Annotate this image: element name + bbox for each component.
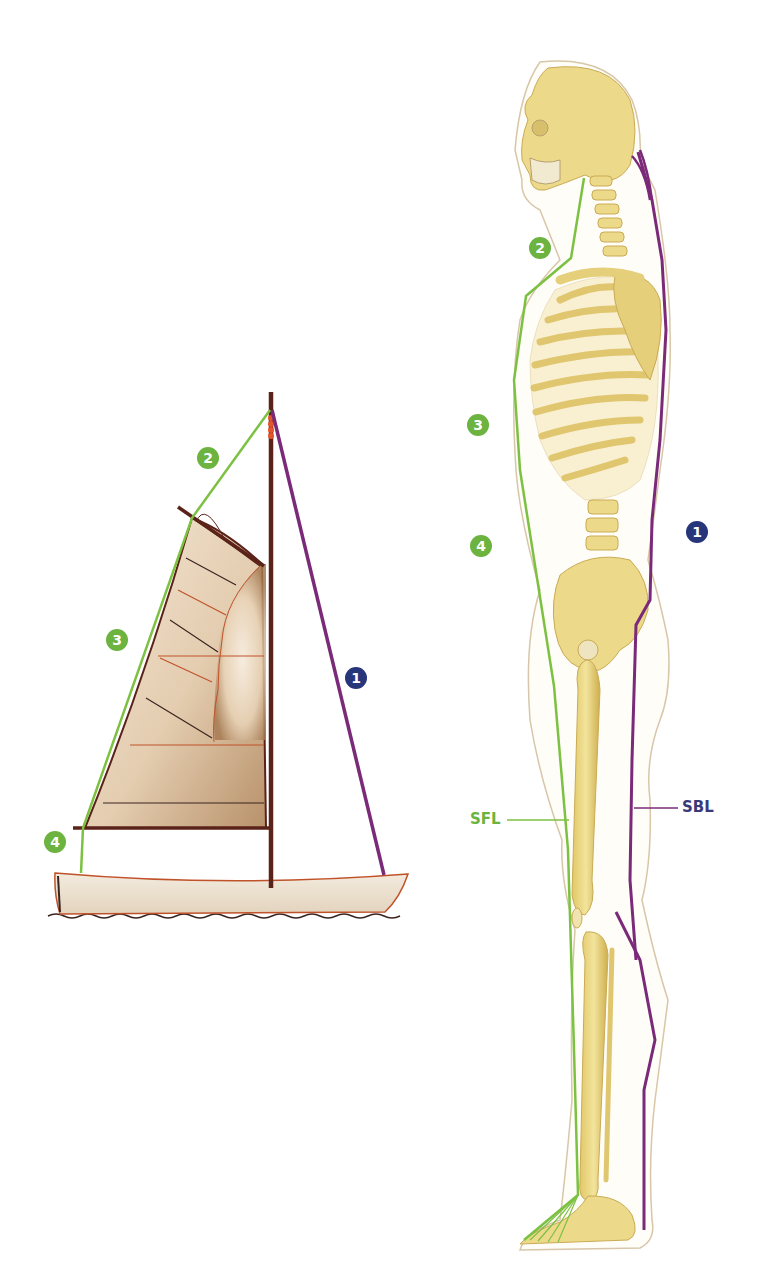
hull [55,873,408,914]
diagram-canvas: 1 2 3 4 1 2 3 4 SFL SBL [0,0,770,1278]
badge-1-skeleton: 1 [686,521,708,543]
sailboat-back-line [272,410,384,875]
svg-text:2: 2 [203,450,213,466]
lumbar-spine [586,500,618,550]
svg-text:1: 1 [692,524,702,540]
badge-2-skeleton: 2 [529,237,551,259]
badge-2-sailboat: 2 [197,447,219,469]
badge-4-skeleton: 4 [470,535,492,557]
svg-text:1: 1 [351,670,361,686]
sailboat-illustration [48,392,408,918]
svg-text:2: 2 [535,240,545,256]
patella [572,908,582,928]
sbl-label: SBL [682,798,714,816]
diagram-svg: 1 2 3 4 1 2 3 4 [0,0,770,1278]
sfl-label: SFL [470,810,501,828]
water-line [48,914,400,918]
svg-text:3: 3 [473,417,483,433]
badge-3-sailboat: 3 [106,629,128,651]
svg-text:3: 3 [112,632,122,648]
badge-1-sailboat: 1 [345,667,367,689]
svg-text:4: 4 [50,834,60,850]
svg-text:4: 4 [476,538,486,554]
skeleton-illustration [507,61,678,1250]
badge-3-skeleton: 3 [467,414,489,436]
badge-4-sailboat: 4 [44,831,66,853]
